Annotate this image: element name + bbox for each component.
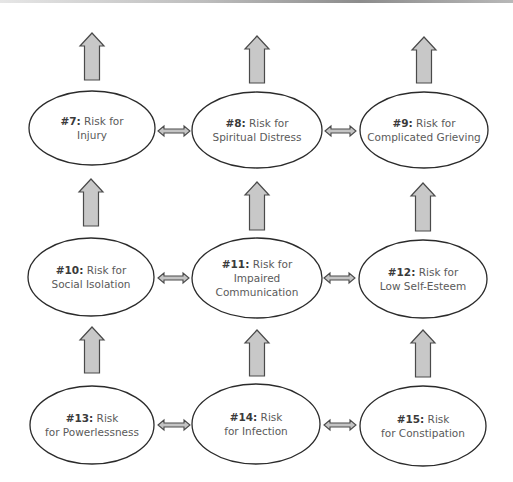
- node-number: #15:: [397, 413, 425, 425]
- node-label-first-line: #13: Risk: [66, 412, 120, 424]
- double-arrow-icon: [158, 273, 189, 283]
- node-ellipse: [30, 386, 154, 464]
- node-label-text: Risk for: [246, 117, 290, 129]
- node-number: #13:: [66, 412, 94, 424]
- node-label-first-line: #11: Risk for: [222, 258, 293, 270]
- node-label-first-line: #7: Risk for: [60, 115, 124, 127]
- up-arrow-icon: [79, 179, 103, 226]
- node-label-text: Risk for: [415, 266, 459, 278]
- node-number: #11:: [222, 258, 250, 270]
- risk-diagnosis-diagram: #7: Risk forInjury#8: Risk forSpiritual …: [0, 0, 513, 482]
- node-label-text: Risk for: [413, 117, 457, 129]
- node-label-text: Risk for: [249, 258, 293, 270]
- node-label-first-line: #15: Risk: [397, 413, 451, 425]
- node-ellipse: [360, 92, 488, 168]
- up-arrow-group: [79, 33, 436, 377]
- node-group: #7: Risk forInjury#8: Risk forSpiritual …: [28, 91, 488, 466]
- diagnosis-node-8: #8: Risk forSpiritual Distress: [192, 92, 322, 168]
- node-label-first-line: #12: Risk for: [388, 266, 459, 278]
- double-arrow-icon: [325, 126, 356, 136]
- node-label-first-line: #8: Risk for: [225, 117, 289, 129]
- node-label-line: Communication: [216, 286, 299, 298]
- double-arrow-icon: [324, 420, 356, 430]
- node-label-text: Risk for: [83, 264, 127, 276]
- node-label-first-line: #14: Risk: [230, 411, 284, 423]
- diagnosis-node-10: #10: Risk forSocial Isolation: [28, 238, 154, 316]
- up-arrow-icon: [80, 33, 104, 80]
- node-label-line: Injury: [77, 129, 107, 141]
- node-number: #12:: [388, 266, 416, 278]
- node-number: #9:: [392, 117, 412, 129]
- up-arrow-icon: [411, 183, 435, 231]
- node-label-first-line: #9: Risk for: [392, 117, 456, 129]
- node-ellipse: [28, 238, 154, 316]
- diagnosis-node-14: #14: Riskfor Infection: [192, 384, 320, 464]
- node-label-text: Risk: [257, 411, 283, 423]
- node-label-line: Low Self-Esteem: [380, 280, 466, 292]
- node-label-first-line: #10: Risk for: [56, 264, 127, 276]
- node-label-line: Spiritual Distress: [212, 131, 301, 143]
- node-label-line: Social Isolation: [52, 278, 131, 290]
- double-arrow-icon: [158, 420, 190, 430]
- double-arrow-icon: [324, 273, 355, 283]
- node-label-line: for Powerlessness: [45, 426, 139, 438]
- node-ellipse: [360, 386, 486, 466]
- node-label-line: Complicated Grieving: [367, 131, 481, 143]
- diagnosis-node-15: #15: Riskfor Constipation: [360, 386, 486, 466]
- node-label-line: for Constipation: [381, 427, 465, 439]
- up-arrow-icon: [80, 327, 104, 373]
- up-arrow-icon: [245, 330, 269, 376]
- node-label-line: for Infection: [224, 425, 288, 437]
- node-number: #8:: [225, 117, 245, 129]
- node-number: #7:: [60, 115, 80, 127]
- node-number: #10:: [56, 264, 84, 276]
- up-arrow-icon: [245, 182, 269, 230]
- diagnosis-node-12: #12: Risk forLow Self-Esteem: [359, 240, 487, 318]
- node-ellipse: [192, 384, 320, 464]
- node-ellipse: [359, 240, 487, 318]
- diagnosis-node-9: #9: Risk forComplicated Grieving: [360, 92, 488, 168]
- diagnosis-node-7: #7: Risk forInjury: [29, 91, 155, 165]
- node-label-text: Risk: [93, 412, 119, 424]
- node-number: #14:: [230, 411, 258, 423]
- up-arrow-icon: [412, 37, 436, 83]
- up-arrow-icon: [245, 36, 269, 83]
- up-arrow-icon: [411, 330, 435, 377]
- node-ellipse: [29, 91, 155, 165]
- node-ellipse: [192, 92, 322, 168]
- node-label-line: Impaired: [234, 272, 281, 284]
- diagnosis-node-11: #11: Risk forImpairedCommunication: [192, 238, 322, 318]
- double-arrow-icon: [158, 126, 190, 136]
- node-label-text: Risk: [424, 413, 450, 425]
- node-label-text: Risk for: [81, 115, 125, 127]
- diagnosis-node-13: #13: Riskfor Powerlessness: [30, 386, 154, 464]
